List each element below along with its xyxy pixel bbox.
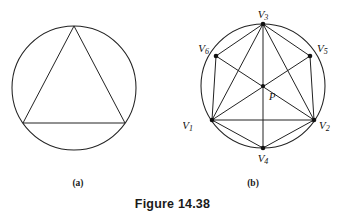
vertex-dot-v4 (261, 146, 266, 151)
vertex-label-v5: V5 (317, 42, 328, 56)
panel-a-inscribed-triangle (23, 26, 125, 123)
figure-container: V1V2V3V4V5V6 P (a) (b) Figure 14.38 (0, 0, 345, 223)
panel-b-vertex-label-group: V1V2V3V4V5V6 (183, 8, 330, 166)
panel-b-diagram: V1V2V3V4V5V6 P (183, 6, 335, 166)
point-p-dot (261, 84, 265, 88)
point-p-label: P (268, 91, 276, 102)
vertex-label-v3: V3 (258, 8, 269, 22)
edge-v2-v6 (216, 56, 314, 120)
panel-a-diagram (8, 22, 141, 155)
vertex-dot-v3 (261, 22, 266, 27)
vertex-dot-v5 (308, 54, 313, 59)
panel-a-circle (12, 26, 136, 150)
vertex-label-v4: V4 (258, 152, 269, 166)
vertex-label-v2: V2 (319, 119, 330, 133)
vertex-dot-v6 (214, 54, 219, 59)
edge-v2-v5 (310, 56, 314, 120)
edge-v2-v3 (263, 24, 314, 120)
figure-caption: Figure 14.38 (0, 197, 345, 211)
edge-v1-v3 (212, 24, 263, 120)
vertex-dot-v1 (210, 118, 215, 123)
vertex-dot-v2 (312, 118, 317, 123)
panel-b-sub-caption: (b) (233, 178, 273, 188)
panel-a-sub-caption: (a) (58, 178, 98, 188)
edge-v1-v4 (212, 120, 263, 148)
edge-v2-v4 (263, 120, 314, 148)
edge-v1-v6 (212, 56, 216, 120)
vertex-label-v1: V1 (183, 119, 193, 133)
edge-v1-v5 (212, 56, 310, 120)
vertex-label-v6: V6 (198, 42, 209, 56)
